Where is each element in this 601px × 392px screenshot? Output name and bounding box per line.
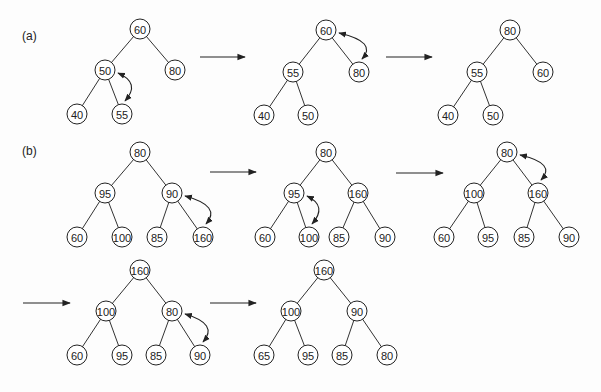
part-label: (a) xyxy=(22,29,37,43)
tree-node: 80 xyxy=(162,301,182,321)
node-value: 95 xyxy=(302,350,314,362)
node-value: 60 xyxy=(71,232,83,244)
tree-node: 100 xyxy=(112,227,132,247)
tree-a3: 8055604050 xyxy=(438,20,553,125)
tree-node: 100 xyxy=(464,183,484,203)
node-value: 160 xyxy=(315,265,333,277)
tree-node: 65 xyxy=(254,345,274,365)
tree-node: 95 xyxy=(112,345,132,365)
heap-diagram-figure: 6050804055605580405080556040508095906010… xyxy=(0,0,601,392)
tree-node: 80 xyxy=(377,345,397,365)
tree-node: 90 xyxy=(162,183,182,203)
node-value: 90 xyxy=(166,188,178,200)
swap-arrow-icon xyxy=(185,196,211,224)
node-value: 65 xyxy=(258,350,270,362)
tree-node: 85 xyxy=(514,227,534,247)
tree-node: 55 xyxy=(283,62,303,82)
tree-b3: 8010016060958590 xyxy=(434,142,579,247)
tree-node: 60 xyxy=(255,227,275,247)
tree-node: 50 xyxy=(483,105,503,125)
tree-node: 100 xyxy=(299,227,319,247)
node-value: 85 xyxy=(151,232,163,244)
tree-node: 80 xyxy=(500,20,520,40)
swap-arrow-icon xyxy=(520,155,546,180)
node-value: 80 xyxy=(169,65,181,77)
node-value: 80 xyxy=(166,306,178,318)
tree-node: 95 xyxy=(95,183,115,203)
node-value: 100 xyxy=(465,188,483,200)
node-value: 85 xyxy=(333,232,345,244)
tree-node: 100 xyxy=(96,301,116,321)
tree-node: 85 xyxy=(146,345,166,365)
tree-a2: 6055804050 xyxy=(254,20,369,125)
node-value: 95 xyxy=(99,188,111,200)
node-value: 85 xyxy=(336,350,348,362)
node-value: 50 xyxy=(302,110,314,122)
tree-node: 85 xyxy=(147,227,167,247)
node-value: 85 xyxy=(518,232,530,244)
tree-b1: 8095906010085160 xyxy=(67,142,213,247)
node-value: 40 xyxy=(71,109,83,121)
node-value: 160 xyxy=(194,232,212,244)
node-value: 40 xyxy=(442,110,454,122)
node-value: 60 xyxy=(259,232,271,244)
tree-node: 60 xyxy=(533,62,553,82)
node-value: 160 xyxy=(529,188,547,200)
tree-node: 40 xyxy=(67,104,87,124)
tree-b4: 1601008060958590 xyxy=(67,260,210,365)
node-value: 100 xyxy=(97,306,115,318)
tree-b2: 8095160601008590 xyxy=(255,142,395,247)
node-value: 95 xyxy=(116,350,128,362)
tree-node: 90 xyxy=(347,301,367,321)
tree-node: 95 xyxy=(284,183,304,203)
node-value: 100 xyxy=(282,306,300,318)
tree-node: 90 xyxy=(375,227,395,247)
tree-node: 55 xyxy=(467,62,487,82)
node-value: 95 xyxy=(288,188,300,200)
tree-node: 50 xyxy=(298,105,318,125)
tree-node: 55 xyxy=(112,104,132,124)
node-value: 95 xyxy=(482,232,494,244)
tree-node: 60 xyxy=(316,20,336,40)
node-value: 100 xyxy=(300,232,318,244)
node-value: 55 xyxy=(471,67,483,79)
node-value: 100 xyxy=(113,232,131,244)
tree-node: 60 xyxy=(130,19,150,39)
tree-node: 80 xyxy=(130,142,150,162)
swap-arrow-icon xyxy=(118,73,132,101)
node-value: 55 xyxy=(116,109,128,121)
node-value: 160 xyxy=(131,265,149,277)
tree-node: 160 xyxy=(528,183,548,203)
node-value: 80 xyxy=(353,67,365,79)
tree-node: 160 xyxy=(348,183,368,203)
tree-node: 160 xyxy=(130,260,150,280)
node-value: 60 xyxy=(537,67,549,79)
node-value: 90 xyxy=(563,232,575,244)
tree-node: 60 xyxy=(434,227,454,247)
tree-node: 90 xyxy=(190,345,210,365)
node-value: 55 xyxy=(287,67,299,79)
node-value: 50 xyxy=(487,110,499,122)
tree-node: 80 xyxy=(497,142,517,162)
tree-node: 95 xyxy=(478,227,498,247)
tree-node: 60 xyxy=(67,227,87,247)
node-value: 60 xyxy=(320,25,332,37)
node-value: 80 xyxy=(320,147,332,159)
part-label: (b) xyxy=(22,144,37,158)
tree-node: 80 xyxy=(165,60,185,80)
tree-node: 50 xyxy=(95,60,115,80)
node-value: 60 xyxy=(134,24,146,36)
tree-node: 90 xyxy=(559,227,579,247)
node-value: 80 xyxy=(504,25,516,37)
swap-arrow-icon xyxy=(307,196,319,224)
diagram-svg: 6050804055605580405080556040508095906010… xyxy=(0,0,601,392)
tree-node: 160 xyxy=(314,260,334,280)
tree-node: 40 xyxy=(438,105,458,125)
node-value: 60 xyxy=(438,232,450,244)
node-value: 80 xyxy=(501,147,513,159)
tree-node: 100 xyxy=(281,301,301,321)
node-value: 90 xyxy=(194,350,206,362)
tree-node: 85 xyxy=(329,227,349,247)
node-value: 80 xyxy=(381,350,393,362)
tree-a1: 6050804055 xyxy=(67,19,185,124)
